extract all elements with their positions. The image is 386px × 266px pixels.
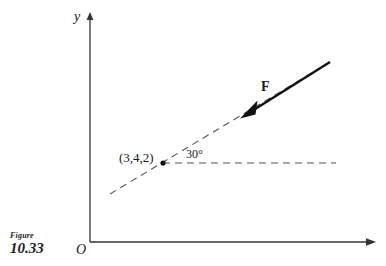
figure-caption-number: 10.33	[10, 240, 44, 256]
diagram-canvas	[0, 0, 386, 266]
angle-label: 30°	[186, 148, 203, 160]
figure-10-33: y O (3,4,2) 30° F Figure 10.33	[0, 0, 386, 266]
force-vector-label: F	[261, 80, 270, 94]
figure-caption: Figure 10.33	[10, 231, 44, 256]
force-vector-arrow	[240, 62, 330, 119]
point-coordinate-label: (3,4,2)	[119, 151, 154, 164]
axis-label-origin: O	[76, 243, 86, 257]
figure-caption-word: Figure	[10, 231, 44, 240]
axis-label-y: y	[74, 10, 80, 24]
y-axis-arrow	[87, 12, 94, 242]
x-axis-arrow	[90, 238, 376, 246]
application-point-dot	[160, 160, 165, 165]
